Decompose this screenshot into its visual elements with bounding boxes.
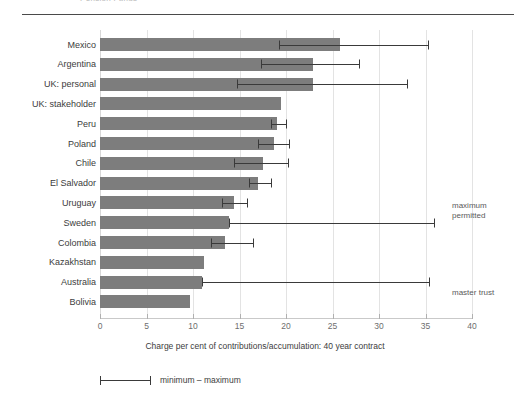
category-label-mexico: Mexico [67,40,96,50]
gridline-15 [240,30,241,318]
category-label-uk-personal: UK: personal [44,79,96,89]
bar-poland [100,137,274,150]
error-cap-min [258,139,259,148]
bar-peru [100,117,277,130]
x-tick-label-15: 15 [235,321,244,331]
error-cap-min [229,218,230,227]
error-cap-max [429,278,430,287]
x-tick-label-25: 25 [328,321,337,331]
annotation-master-trust: master trust [452,288,494,298]
legend-error-bar-line [100,380,150,381]
bar-colombia [100,236,225,249]
x-tick-label-20: 20 [281,321,290,331]
category-label-bolivia: Bolivia [69,297,96,307]
x-tick-25 [333,314,334,319]
error-bar-uk-personal [237,84,407,85]
error-cap-max [289,139,290,148]
gridline-30 [379,30,380,318]
error-cap-max [253,238,254,247]
error-cap-max [288,159,289,168]
x-tick-15 [240,314,241,319]
x-tick-30 [379,314,380,319]
x-tick-10 [193,314,194,319]
error-cap-min [237,80,238,89]
error-bar-peru [271,124,286,125]
error-bar-chile [234,163,288,164]
error-bar-el-salvador [249,183,271,184]
error-cap-min [211,238,212,247]
category-label-uk-stakeholder: UK: stakeholder [32,99,96,109]
error-bar-uruguay [222,203,247,204]
legend-error-bar-cap-right [150,376,151,385]
annotation-maximum: maximumpermitted [452,201,487,221]
error-cap-min [249,179,250,188]
category-label-el-salvador: El Salvador [50,178,96,188]
legend-error-bar-cap-left [100,376,101,385]
x-tick-20 [286,314,287,319]
error-cap-max [428,40,429,49]
error-cap-min [222,198,223,207]
legend-label: minimum – maximum [160,375,241,385]
error-bar-colombia [211,243,254,244]
error-cap-max [434,218,435,227]
error-cap-max [407,80,408,89]
bar-uk-stakeholder [100,97,281,110]
category-label-kazakhstan: Kazakhstan [49,257,96,267]
category-label-colombia: Colombia [58,238,96,248]
error-cap-min [261,60,262,69]
bar-sweden [100,216,229,229]
gridline-25 [333,30,334,318]
error-bar-sweden [229,223,434,224]
bar-kazakhstan [100,256,204,269]
x-tick-35 [426,314,427,319]
error-cap-min [271,119,272,128]
x-tick-label-10: 10 [188,321,197,331]
error-bar-mexico [279,45,429,46]
x-axis-title: Charge per cent of contributions/accumul… [0,341,530,351]
category-label-australia: Australia [61,277,96,287]
x-tick-0 [100,314,101,319]
annotation-line-1: master trust [452,288,494,298]
error-bar-australia [202,282,429,283]
bar-el-salvador [100,177,258,190]
error-cap-max [359,60,360,69]
x-tick-label-5: 5 [144,321,149,331]
annotation-line-2: permitted [452,211,487,221]
error-cap-max [247,198,248,207]
x-tick-40 [472,314,473,319]
category-label-peru: Peru [77,119,96,129]
category-label-argentina: Argentina [57,59,96,69]
gridline-35 [426,30,427,318]
error-cap-min [279,40,280,49]
category-label-poland: Poland [68,139,96,149]
error-bar-poland [258,144,289,145]
gridline-20 [286,30,287,318]
figure: Pension Funds 0510152025303540MexicoArge… [0,0,530,404]
category-label-sweden: Sweden [63,218,96,228]
category-label-uruguay: Uruguay [62,198,96,208]
x-tick-label-0: 0 [98,321,103,331]
gridline-40 [472,30,473,318]
x-tick-5 [147,314,148,319]
error-cap-min [234,159,235,168]
bar-bolivia [100,295,190,308]
error-bar-argentina [261,64,359,65]
x-tick-label-40: 40 [467,321,476,331]
bar-uruguay [100,196,234,209]
x-tick-label-30: 30 [374,321,383,331]
error-cap-max [286,119,287,128]
error-cap-max [271,179,272,188]
bar-australia [100,276,202,289]
category-label-chile: Chile [75,158,96,168]
annotation-line-1: maximum [452,201,487,211]
x-tick-label-35: 35 [421,321,430,331]
error-cap-min [202,278,203,287]
